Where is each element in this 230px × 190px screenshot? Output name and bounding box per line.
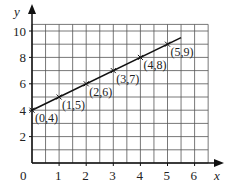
y-tick-label: 10 [13, 24, 26, 39]
x-tick-label: 3 [109, 168, 116, 183]
x-tick-label: 1 [55, 168, 62, 183]
y-tick-label: 8 [20, 50, 27, 65]
point-label: (2,6) [89, 85, 112, 99]
x-tick-label: 0 [20, 168, 27, 183]
x-tick-label: 4 [136, 168, 143, 183]
y-axis-arrow-icon [28, 4, 36, 14]
data-series [30, 38, 182, 113]
point-label: (4,8) [143, 58, 166, 72]
y-tick-label: 4 [20, 103, 27, 118]
y-tick-label: 6 [20, 76, 27, 91]
x-tick-label: 5 [164, 168, 171, 183]
x-axis-label: x [213, 168, 220, 183]
y-tick-label: 2 [20, 129, 27, 144]
point-label: (1,5) [62, 98, 85, 112]
point-label: (0,4) [35, 111, 58, 125]
line-chart: 0123456246810 (0,4)(1,5)(2,6)(3,7)(4,8)(… [0, 0, 230, 190]
data-line [32, 38, 181, 111]
x-axis-arrow-icon [214, 159, 224, 167]
x-tick-label: 6 [191, 168, 198, 183]
point-label: (3,7) [116, 72, 139, 86]
x-tick-label: 2 [82, 168, 89, 183]
y-axis-label: y [12, 4, 20, 19]
point-label: (5,9) [171, 45, 194, 59]
